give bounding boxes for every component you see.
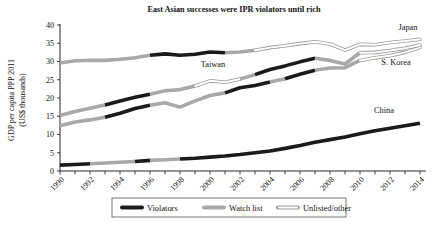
y-tick-label: 0 [50,167,54,176]
y-tick-label: 35 [46,39,54,48]
legend-label-watch_list: Watch list [229,204,263,213]
chart-legend: ViolatorsWatch listUnlisted/other [112,198,351,217]
segment-watch_list [90,162,135,164]
segment-watch_list [150,159,180,160]
country-label-taiwan: Taiwan [201,60,226,69]
y-tick-label: 10 [46,130,54,139]
segment-violator [135,160,150,161]
country-label-china: China [374,106,394,115]
legend-label-unlisted: Unlisted/other [303,204,351,213]
chart-container: East Asian successes were IPR violators … [0,0,443,229]
y-axis-label-line2: (US$ thousands) [18,73,27,127]
chart-title: East Asian successes were IPR violators … [148,5,321,14]
y-tick-label: 20 [46,94,54,103]
legend-label-violator: Violators [147,204,178,213]
y-tick-label: 25 [46,76,54,85]
gdp-ipr-line-chart: East Asian successes were IPR violators … [0,0,443,229]
y-tick-label: 15 [46,112,54,121]
y-tick-label: 30 [46,57,54,66]
y-axis-label-line1: GDP per capita PPP 2011 [7,59,16,141]
country-label-s-korea: S. Korea [381,58,411,67]
y-tick-label: 40 [46,21,54,30]
segment-violator [60,164,90,165]
country-label-japan: Japan [398,23,418,32]
y-tick-label: 5 [50,149,54,158]
